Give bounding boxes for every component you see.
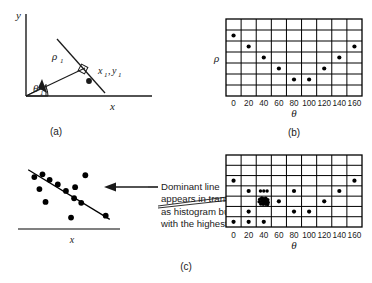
scatter-point (63, 188, 69, 194)
panel-a-theta-subscript: 1 (40, 89, 44, 97)
panel-c-tick-label: 160 (348, 231, 362, 240)
scatter-point (47, 177, 53, 183)
highest-count-bucket (263, 198, 267, 202)
panel-c-dot (292, 209, 296, 213)
panel-a-caption: (a) (50, 126, 62, 137)
panel-b-dot (352, 44, 356, 48)
panel-b-dot (247, 44, 251, 48)
highest-count-bucket (266, 203, 270, 207)
panel-c-dot (307, 209, 311, 213)
panel-c-caption: (c) (180, 261, 192, 272)
panel-c-dot (231, 179, 235, 183)
panel-c-x-axis-label: θ (291, 239, 297, 251)
panel-b-tick-label: 20 (244, 99, 254, 108)
panel-a-point-x-subscript: 1 (104, 71, 108, 79)
scatter-point (31, 174, 37, 180)
panel-c-dot (352, 179, 356, 183)
panel-b-tick-label: 60 (274, 99, 284, 108)
panel-c-cluster-dot (265, 189, 268, 192)
scatter-point (82, 172, 88, 178)
panel-a-point-x-label: x (97, 65, 103, 76)
panel-a-theta-label: θ (33, 82, 39, 94)
panel-c-dot (322, 199, 326, 203)
panel-b-dot (337, 55, 341, 59)
scatter-point (72, 184, 78, 190)
panel-c-dot (247, 189, 251, 193)
panel-c-tick-label: 40 (259, 231, 269, 240)
scatter-point (103, 213, 109, 219)
panel-b-dot (292, 77, 296, 81)
panel-b-caption: (b) (288, 127, 300, 138)
panel-c-cluster-dot (262, 189, 265, 192)
panel-c-dot (247, 209, 251, 213)
panel-a-data-point (86, 78, 92, 84)
panel-b-dot (307, 77, 311, 81)
panel-b-dot (231, 33, 235, 37)
panel-a-point-comma: , (108, 65, 111, 76)
panel-b-tick-label: 0 (231, 99, 236, 108)
panel-b-tick-label: 140 (332, 99, 346, 108)
scatter-point (40, 171, 46, 177)
panel-a-rho-subscript: 1 (60, 57, 64, 65)
panel-c-dot (231, 220, 235, 224)
panel-a-point-y-label: y (111, 65, 117, 76)
scatter-point (71, 195, 77, 201)
highest-count-bucket (262, 201, 266, 205)
panel-c-dot (247, 220, 251, 224)
panel-c-dot (292, 189, 296, 193)
panel-c-dominant-line (28, 170, 110, 220)
panel-a-y-axis-label: y (15, 9, 21, 21)
panel-b-tick-label: 120 (317, 99, 331, 108)
panel-c-tick-label: 20 (244, 231, 254, 240)
panel-c-tick-label: 60 (274, 231, 284, 240)
hough-transform-figure: y x ρ 1 θ 1 x 1 , y 1 (a) 02040608010012… (0, 0, 372, 283)
panel-c-scatter-x-label: x (69, 234, 75, 245)
annotation-line: Dominant line (161, 181, 220, 192)
panel-c-dot (262, 220, 266, 224)
panel-b-dot (262, 55, 266, 59)
panel-a-rho-label: ρ (51, 50, 57, 62)
panel-c-tick-label: 100 (302, 231, 316, 240)
panel-c-tick-label: 0 (231, 231, 236, 240)
panel-c-dot (277, 199, 281, 203)
panel-c-tick-label: 120 (317, 231, 331, 240)
panel-b-y-axis-label: ρ (213, 52, 219, 64)
panel-c-tick-label: 140 (332, 231, 346, 240)
panel-c-arrow-head-icon (104, 183, 116, 192)
panel-b-grid (226, 19, 362, 96)
panel-c-cluster-dot (259, 189, 262, 192)
panel-b-dot (322, 66, 326, 70)
scatter-point (78, 200, 84, 206)
panel-b: 020406080100120140160 ρ θ (b) (213, 19, 362, 138)
panel-b-tick-label: 160 (348, 99, 362, 108)
panel-b-x-axis-label: θ (291, 107, 297, 119)
scatter-point (68, 215, 74, 221)
panel-b-dot (277, 66, 281, 70)
panel-c-histogram: 020406080100120140160 θ (226, 155, 362, 251)
panel-b-tick-label: 100 (302, 99, 316, 108)
panel-c-dot (337, 189, 341, 193)
figure-canvas: y x ρ 1 θ 1 x 1 , y 1 (a) 02040608010012… (0, 0, 372, 283)
panel-a-point-y-subscript: 1 (118, 71, 122, 79)
scatter-point (43, 199, 49, 205)
dominant-line-stroke (28, 170, 110, 220)
panel-a: y x ρ 1 θ 1 x 1 , y 1 (a) (15, 9, 152, 137)
scatter-point (37, 186, 43, 192)
panel-a-x-axis-label: x (109, 100, 115, 112)
panel-b-grid-frame (226, 19, 362, 96)
scatter-point (55, 182, 61, 188)
panel-b-tick-label: 40 (259, 99, 269, 108)
